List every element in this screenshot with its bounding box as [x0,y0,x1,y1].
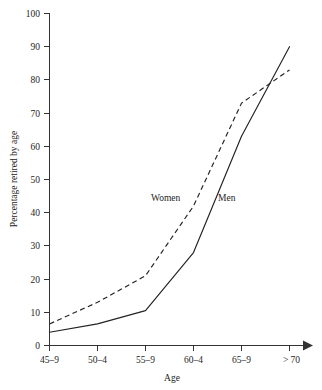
y-tick-label-90: 90 [31,42,41,52]
y-tick-label-50: 50 [31,175,41,185]
x-tick-label-45-9: 45–9 [40,355,59,365]
x-tick-label-65-9: 65–9 [232,355,251,365]
x-tick-label-60-4: 60–4 [184,355,203,365]
x-axis-ticks [50,346,290,352]
y-axis-ticks [44,14,50,346]
y-tick-label-20: 20 [31,275,41,285]
y-tick-label-0: 0 [35,341,40,351]
y-tick-label-80: 80 [31,75,41,85]
x-axis-title: Age [164,373,180,383]
y-tick-label-30: 30 [31,241,41,251]
y-tick-label-100: 100 [26,9,41,19]
series-line-men [50,47,290,333]
y-tick-label-60: 60 [31,142,41,152]
y-axis-title: Percentage retired by age [9,131,19,227]
series-label-women: Women [151,193,181,203]
chart-container: 100 90 80 70 60 50 40 30 20 10 0 45–9 50… [0,0,322,390]
x-tick-label-50-4: 50–4 [88,355,107,365]
retirement-by-age-line-chart: 100 90 80 70 60 50 40 30 20 10 0 45–9 50… [0,0,322,390]
x-tick-label-gt-70: > 70 [283,355,300,365]
y-tick-label-10: 10 [31,308,41,318]
y-tick-label-40: 40 [31,208,41,218]
y-tick-label-70: 70 [31,109,41,119]
series-label-men: Men [218,193,236,203]
x-axis-arrow-icon [303,341,313,351]
x-tick-label-55-9: 55–9 [136,355,155,365]
